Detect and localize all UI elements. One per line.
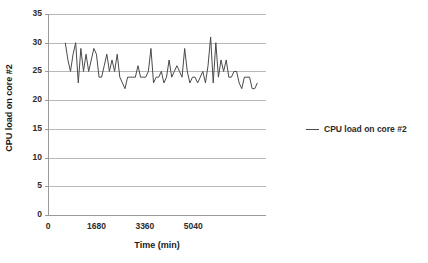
y-tick-label: 35: [18, 8, 42, 18]
chart-legend: CPU load on core #2: [306, 124, 407, 134]
y-tick-label: 20: [18, 94, 42, 104]
y-axis-title-wrap: CPU load on core #2: [0, 0, 19, 215]
y-tick-label: 10: [18, 152, 42, 162]
y-tick-label: 5: [18, 180, 42, 190]
y-tick-label: 15: [18, 123, 42, 133]
legend-line-swatch: [306, 129, 319, 130]
x-tick-label: 0: [28, 221, 68, 231]
cpu-load-line-chart: 05101520253035 0168033605040 CPU load on…: [0, 0, 428, 263]
data-series-line: [65, 37, 257, 89]
x-tick-label: 3360: [125, 221, 165, 231]
x-tick-label: 5040: [173, 221, 213, 231]
y-tick-label: 25: [18, 65, 42, 75]
x-tick-label: 1680: [76, 221, 116, 231]
y-tick-label: 0: [18, 209, 42, 219]
x-axis-title: Time (min): [48, 240, 266, 250]
gridlines-group: [48, 15, 266, 187]
y-tick-label: 30: [18, 37, 42, 47]
legend-entry-label: CPU load on core #2: [324, 124, 407, 134]
y-tick-marks: [45, 15, 48, 216]
y-axis-title: CPU load on core #2: [4, 64, 14, 152]
